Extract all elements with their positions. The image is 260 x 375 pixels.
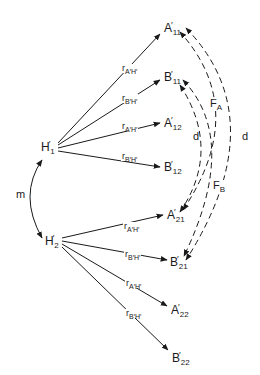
- dashed-d-inner: [180, 85, 201, 212]
- dashed-d-outer: [186, 28, 231, 260]
- node-a11: A′11: [164, 22, 181, 34]
- edge-h2-b22: [62, 247, 168, 350]
- node-b11: B′11: [164, 71, 181, 83]
- edge-label-h1-b12: rB′H′: [121, 152, 138, 161]
- node-b12: B′12: [164, 161, 182, 173]
- label-m: m: [16, 189, 25, 200]
- edge-h1-b12: [58, 151, 160, 167]
- node-a12: A′12: [164, 117, 182, 129]
- edge-label-h2-a21: rA′H′: [123, 222, 140, 231]
- label-d-inner: d: [193, 131, 199, 142]
- node-a22: A′22: [171, 304, 189, 316]
- node-a21: A′21: [167, 209, 185, 221]
- edge-m: [30, 160, 42, 238]
- dashed-fa: [180, 32, 216, 210]
- edge-label-h1-a12: rA′H′: [121, 122, 138, 131]
- label-fb: FB: [213, 180, 225, 191]
- node-b21: B′21: [170, 256, 188, 268]
- edge-label-h1-a11: rA′H′: [121, 64, 138, 73]
- edge-label-h2-a22: rA′H′: [125, 279, 142, 288]
- edge-label-h2-b22: rB′H′: [125, 309, 142, 318]
- edge-label-h2-b21: rB′H′: [124, 250, 141, 259]
- node-h1: H′1: [41, 141, 55, 153]
- edge-h2-a21: [62, 215, 163, 238]
- label-d-outer: d: [242, 131, 248, 142]
- dashed-fb: [183, 80, 212, 256]
- edge-label-h1-b11: rB′H′: [121, 94, 138, 103]
- label-fa: FA: [210, 98, 222, 109]
- edge-h2-b21: [62, 241, 167, 260]
- relationship-diagram: H′1 H′2 A′11 B′11 A′12 B′12 A′21 B′21 A′…: [0, 0, 260, 375]
- edge-h2-a22: [62, 244, 167, 306]
- node-h2: H′2: [45, 235, 59, 247]
- node-b22: B′22: [172, 352, 190, 364]
